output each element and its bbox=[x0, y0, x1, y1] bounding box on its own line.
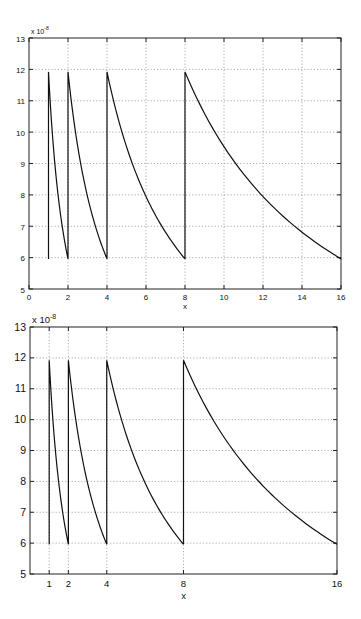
y-tick-label: 9 bbox=[20, 444, 26, 456]
y-tick-label: 7 bbox=[21, 223, 26, 232]
y-tick-label: 8 bbox=[20, 475, 26, 487]
x-axis-label: x bbox=[181, 590, 186, 601]
y-tick-label: 5 bbox=[21, 286, 26, 295]
figure: 0246810121416x5678910111213x 10-8124816x… bbox=[0, 0, 361, 619]
series-line bbox=[49, 72, 342, 259]
x-tick-label: 2 bbox=[66, 578, 71, 589]
y-tick-label: 6 bbox=[20, 537, 26, 549]
y-tick-label: 12 bbox=[14, 351, 26, 363]
y-tick-label: 11 bbox=[17, 97, 26, 106]
chart-1: 0246810121416x5678910111213x 10-8 bbox=[16, 25, 346, 311]
x-tick-label: 8 bbox=[183, 293, 188, 302]
x-tick-label: 14 bbox=[298, 293, 307, 302]
x-tick-label: 8 bbox=[181, 578, 186, 589]
x-tick-label: 6 bbox=[144, 293, 149, 302]
x-tick-label: 4 bbox=[104, 578, 109, 589]
x-axis: 0246810121416x bbox=[27, 38, 346, 311]
x-tick-label: 16 bbox=[337, 293, 346, 302]
x-tick-label: 10 bbox=[220, 293, 229, 302]
y-tick-label: 8 bbox=[21, 191, 26, 200]
y-multiplier-label: x 10-8 bbox=[32, 313, 56, 325]
y-multiplier-label: x 10-8 bbox=[31, 25, 49, 35]
y-tick-label: 6 bbox=[21, 254, 26, 263]
y-axis: 5678910111213 bbox=[14, 321, 337, 580]
y-tick-label: 11 bbox=[15, 382, 26, 394]
chart-2: 124816x5678910111213x 10-8 bbox=[14, 313, 342, 601]
x-tick-label: 0 bbox=[27, 293, 32, 302]
x-tick-label: 12 bbox=[259, 293, 268, 302]
y-tick-label: 7 bbox=[20, 506, 26, 518]
x-axis-label: x bbox=[183, 302, 187, 311]
y-tick-label: 10 bbox=[16, 129, 25, 138]
y-tick-label: 10 bbox=[14, 413, 26, 425]
x-tick-label: 2 bbox=[66, 293, 71, 302]
series-line bbox=[49, 360, 337, 544]
x-tick-label: 4 bbox=[105, 293, 110, 302]
y-tick-label: 13 bbox=[14, 321, 26, 333]
x-tick-label: 1 bbox=[47, 578, 52, 589]
x-tick-label: 16 bbox=[332, 578, 343, 589]
y-tick-label: 5 bbox=[20, 568, 26, 580]
y-tick-label: 13 bbox=[16, 35, 25, 44]
y-axis: 5678910111213 bbox=[16, 35, 341, 295]
x-axis: 124816x bbox=[47, 327, 343, 601]
y-tick-label: 12 bbox=[16, 66, 25, 75]
y-tick-label: 9 bbox=[21, 160, 26, 169]
